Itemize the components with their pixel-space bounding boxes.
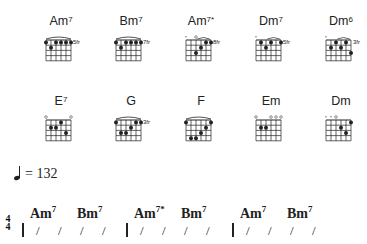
measure-chord: Am7* bbox=[134, 206, 165, 222]
chord-diagram: Dm×× bbox=[306, 94, 367, 146]
fretboard-icon: ×3fr bbox=[306, 30, 367, 66]
chord-diagram: Am75fr bbox=[26, 14, 96, 66]
measure-chord: Am7 bbox=[30, 206, 56, 222]
rhythm-slash: / bbox=[268, 223, 272, 239]
chord-name: E7 bbox=[26, 94, 96, 110]
rhythm-slash: / bbox=[290, 223, 294, 239]
rhythm-slash: / bbox=[140, 223, 144, 239]
quarter-note-icon bbox=[14, 166, 22, 180]
chord-name: Dm bbox=[306, 94, 367, 110]
rhythm-slash: / bbox=[246, 223, 250, 239]
svg-text:5fr: 5fr bbox=[283, 39, 290, 45]
tempo-marking: = 132 bbox=[14, 166, 57, 182]
time-signature: 4 4 bbox=[4, 215, 12, 231]
fretboard-icon bbox=[26, 110, 96, 146]
rhythm-staff: 4 4 Am7Bm7////Am7*Bm7////Am7Bm7//// bbox=[0, 205, 367, 244]
chord-diagram: Am7*×8fr bbox=[166, 14, 236, 66]
rhythm-slash: / bbox=[58, 223, 62, 239]
svg-text:8fr: 8fr bbox=[213, 39, 220, 45]
svg-text:×: × bbox=[325, 114, 328, 119]
chord-diagram: Dm6×3fr bbox=[306, 14, 367, 66]
fretboard-icon: ×8fr bbox=[166, 30, 236, 66]
chord-name: Am7 bbox=[26, 14, 96, 30]
rhythm-slash: / bbox=[36, 223, 40, 239]
rhythm-slash: / bbox=[206, 223, 210, 239]
chord-name: F bbox=[166, 94, 236, 110]
barline bbox=[232, 223, 234, 237]
chord-name: Am7* bbox=[166, 14, 236, 30]
svg-text:7fr: 7fr bbox=[143, 39, 150, 45]
fretboard-icon: ×× bbox=[306, 110, 367, 146]
rhythm-slash: / bbox=[312, 223, 316, 239]
chord-diagram: Em bbox=[236, 94, 306, 146]
fretboard-icon: 5fr bbox=[26, 30, 96, 66]
fretboard-icon bbox=[166, 110, 236, 146]
svg-text:×: × bbox=[185, 34, 188, 39]
rhythm-slash: / bbox=[80, 223, 84, 239]
svg-text:×: × bbox=[255, 34, 258, 39]
measure-chord: Bm7 bbox=[181, 206, 207, 222]
measure-chord: Am7 bbox=[240, 206, 266, 222]
svg-text:3fr: 3fr bbox=[353, 39, 360, 45]
svg-text:5fr: 5fr bbox=[73, 39, 80, 45]
chord-diagram: Dm7×5fr bbox=[236, 14, 306, 66]
rhythm-slash: / bbox=[102, 223, 106, 239]
fretboard-icon: 7fr bbox=[96, 30, 166, 66]
measure-chord: Bm7 bbox=[77, 206, 103, 222]
chord-name: Dm7 bbox=[236, 14, 306, 30]
fretboard-icon: ×5fr bbox=[236, 30, 306, 66]
chord-diagram: Bm77fr bbox=[96, 14, 166, 66]
tempo-value: = 132 bbox=[25, 166, 57, 181]
time-signature-bottom: 4 bbox=[4, 223, 12, 231]
barline bbox=[22, 223, 24, 237]
chord-name: Em bbox=[236, 94, 306, 110]
svg-text:3fr: 3fr bbox=[143, 119, 150, 125]
fretboard-icon: 3fr bbox=[96, 110, 166, 146]
chord-diagram: E7 bbox=[26, 94, 96, 146]
svg-text:×: × bbox=[330, 114, 333, 119]
barline bbox=[126, 223, 128, 237]
chord-name: Dm6 bbox=[306, 14, 367, 30]
chord-name: Bm7 bbox=[96, 14, 166, 30]
chord-diagram: G3fr bbox=[96, 94, 166, 146]
svg-text:×: × bbox=[325, 34, 328, 39]
rhythm-slash: / bbox=[184, 223, 188, 239]
fretboard-icon bbox=[236, 110, 306, 146]
rhythm-slash: / bbox=[162, 223, 166, 239]
measure-chord: Bm7 bbox=[287, 206, 313, 222]
chord-name: G bbox=[96, 94, 166, 110]
chord-diagram: F bbox=[166, 94, 236, 146]
